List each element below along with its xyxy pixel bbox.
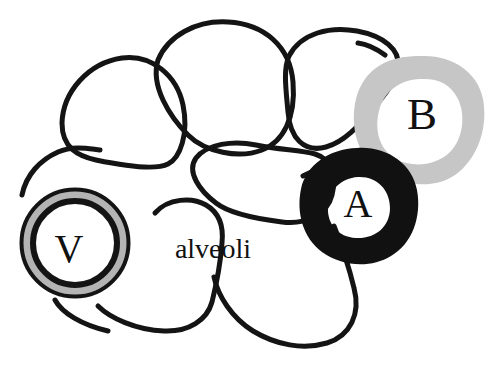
alveoli-diagram: V A B alveoli: [0, 0, 501, 376]
label-vein: V: [55, 226, 84, 271]
label-alveoli: alveoli: [175, 233, 251, 264]
label-bronchiole: B: [407, 89, 437, 139]
label-artery: A: [344, 181, 373, 226]
diagram-canvas: V A B alveoli: [0, 0, 501, 376]
